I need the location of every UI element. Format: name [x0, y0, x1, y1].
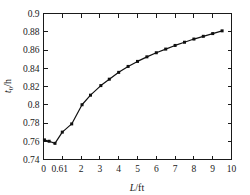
y-tick-label: 0.9	[28, 9, 40, 19]
data-point-marker	[202, 35, 205, 38]
data-point-marker	[221, 29, 224, 32]
data-point-marker	[192, 38, 195, 41]
y-tick-label: 0.88	[23, 27, 40, 37]
data-point-marker	[61, 131, 64, 134]
data-point-marker	[108, 78, 111, 81]
data-point-marker	[211, 32, 214, 35]
data-point-marker	[183, 41, 186, 44]
y-tick-label: 0.76	[23, 137, 40, 147]
y-tick-label: 0.8	[28, 100, 40, 110]
y-tick-label: 0.78	[23, 118, 40, 128]
y-axis-tick-labels: 0.740.760.780.80.820.840.860.880.9	[23, 9, 40, 165]
data-point-marker	[99, 84, 102, 87]
x-tick-label: 8	[192, 164, 197, 174]
x-tick-label: 10	[227, 164, 237, 174]
data-point-marker	[164, 48, 167, 51]
data-point-marker	[89, 94, 92, 97]
x-tick-label: 0.61	[51, 164, 68, 174]
data-point-marker	[174, 44, 177, 47]
x-axis-title: L/ft	[129, 182, 145, 193]
data-point-marker	[81, 103, 84, 106]
y-tick-label: 0.74	[23, 155, 40, 165]
x-tick-label: 5	[135, 164, 140, 174]
data-point-marker	[136, 60, 139, 63]
x-tick-label: 7	[173, 164, 178, 174]
data-point-marker	[48, 140, 51, 143]
y-tick-label: 0.82	[23, 82, 40, 92]
data-point-marker	[145, 55, 148, 58]
line-chart: 0.740.760.780.80.820.840.860.880.9 00.61…	[0, 0, 250, 195]
x-tick-label: 6	[154, 164, 159, 174]
data-point-marker	[155, 51, 158, 54]
data-point-marker	[53, 142, 56, 145]
x-tick-label: 0	[41, 164, 46, 174]
x-tick-label: 3	[98, 164, 103, 174]
y-tick-label: 0.84	[23, 64, 40, 74]
chart-figure: 0.740.760.780.80.820.840.860.880.9 00.61…	[0, 0, 250, 195]
data-point-marker	[127, 65, 130, 68]
y-tick-label: 0.86	[23, 45, 40, 55]
x-tick-label: 2	[79, 164, 84, 174]
x-tick-label: 9	[210, 164, 215, 174]
data-point-marker	[43, 138, 46, 141]
x-tick-label: 4	[116, 164, 121, 174]
data-point-marker	[70, 122, 73, 125]
data-point-marker	[117, 71, 120, 74]
